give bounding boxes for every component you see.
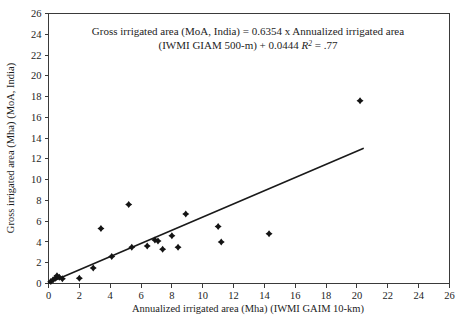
scatter-plot: 02468101214161820222426 0246810121416182… bbox=[0, 0, 467, 325]
data-point-marker bbox=[125, 201, 132, 208]
equation-line-2-suffix: = .77 bbox=[312, 39, 338, 51]
y-tick-label: 20 bbox=[31, 70, 42, 81]
data-point bbox=[108, 253, 115, 260]
x-tick-label: 16 bbox=[290, 290, 301, 301]
y-axis-title: Gross irrigated area (Mha) (MoA, India) bbox=[5, 62, 17, 233]
regression-line bbox=[49, 148, 364, 283]
data-point bbox=[215, 223, 222, 230]
x-tick-label: 4 bbox=[108, 290, 114, 301]
equation-line-2-prefix: (IWMI GIAM 500-m) + 0.0444 bbox=[158, 39, 301, 52]
data-point-marker bbox=[108, 253, 115, 260]
x-axis-ticks: 02468101214161820222426 bbox=[46, 284, 455, 301]
plot-axes bbox=[49, 14, 450, 284]
data-point bbox=[144, 243, 151, 250]
y-tick-label: 14 bbox=[31, 133, 42, 144]
x-tick-label: 8 bbox=[169, 290, 174, 301]
y-tick-label: 10 bbox=[31, 174, 42, 185]
data-point-marker bbox=[168, 232, 175, 239]
data-point bbox=[168, 232, 175, 239]
y-tick-label: 8 bbox=[36, 195, 41, 206]
data-point-marker bbox=[144, 243, 151, 250]
y-tick-label: 26 bbox=[31, 8, 42, 19]
y-tick-label: 6 bbox=[36, 216, 41, 227]
data-point bbox=[97, 225, 104, 232]
y-tick-label: 16 bbox=[31, 112, 42, 123]
y-tick-label: 18 bbox=[31, 91, 42, 102]
x-tick-label: 22 bbox=[383, 290, 394, 301]
data-point-marker bbox=[218, 238, 225, 245]
y-tick-label: 0 bbox=[36, 278, 41, 289]
data-point bbox=[159, 246, 166, 253]
x-tick-label: 20 bbox=[352, 290, 363, 301]
y-tick-label: 22 bbox=[31, 50, 42, 61]
data-point-marker bbox=[182, 210, 189, 217]
x-tick-label: 0 bbox=[46, 290, 51, 301]
x-tick-label: 10 bbox=[197, 290, 208, 301]
equation-line-1: Gross irrigated area (MoA, India) = 0.63… bbox=[92, 25, 404, 38]
chart-page: 02468101214161820222426 0246810121416182… bbox=[0, 0, 467, 325]
y-tick-label: 12 bbox=[31, 153, 42, 164]
x-tick-label: 2 bbox=[77, 290, 82, 301]
y-tick-label: 4 bbox=[36, 237, 42, 248]
data-points-group bbox=[47, 97, 363, 285]
data-point-marker bbox=[357, 97, 364, 104]
y-tick-label: 24 bbox=[31, 29, 42, 40]
data-point-marker bbox=[97, 225, 104, 232]
data-point-marker bbox=[159, 246, 166, 253]
data-point bbox=[175, 244, 182, 251]
equation-line-2: (IWMI GIAM 500-m) + 0.0444 R2 = .77 bbox=[158, 39, 338, 53]
data-point-marker bbox=[76, 275, 83, 282]
y-tick-label: 2 bbox=[36, 257, 41, 268]
data-point-marker bbox=[215, 223, 222, 230]
data-point bbox=[218, 238, 225, 245]
data-point-marker bbox=[266, 230, 273, 237]
data-point bbox=[357, 97, 364, 104]
x-tick-label: 26 bbox=[444, 290, 455, 301]
data-point-marker bbox=[128, 244, 135, 251]
data-point-marker bbox=[175, 244, 182, 251]
data-point bbox=[128, 244, 135, 251]
x-tick-label: 6 bbox=[138, 290, 143, 301]
data-point bbox=[182, 210, 189, 217]
data-point bbox=[76, 275, 83, 282]
x-tick-label: 14 bbox=[259, 290, 270, 301]
x-tick-label: 24 bbox=[413, 290, 424, 301]
x-tick-label: 18 bbox=[321, 290, 332, 301]
y-axis-ticks: 02468101214161820222426 bbox=[31, 8, 49, 289]
x-axis-title: Annualized irrigated area (Mha) (IWMI GA… bbox=[132, 303, 365, 315]
x-tick-label: 12 bbox=[228, 290, 239, 301]
data-point bbox=[266, 230, 273, 237]
data-point bbox=[125, 201, 132, 208]
